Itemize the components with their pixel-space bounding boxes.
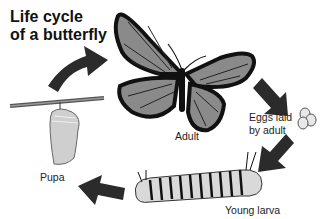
arrow-icon xyxy=(48,46,108,92)
stage-label-adult: Adult xyxy=(175,130,199,142)
arrow-icon xyxy=(78,175,125,205)
arrow-icon xyxy=(258,134,294,172)
stage-label-pupa: Pupa xyxy=(40,171,65,183)
chrysalis-icon xyxy=(50,109,79,164)
stage-label-eggs-line-2: by adult xyxy=(249,124,286,136)
stage-label-eggs-line-1: Eggs laid xyxy=(249,111,292,123)
eggs-icon xyxy=(298,108,316,129)
caterpillar-icon xyxy=(135,152,262,202)
butterfly-icon xyxy=(116,14,254,130)
twig-icon xyxy=(10,98,104,110)
life-cycle-illustration xyxy=(0,0,325,219)
stage-label-larva: Young larva xyxy=(225,204,280,216)
